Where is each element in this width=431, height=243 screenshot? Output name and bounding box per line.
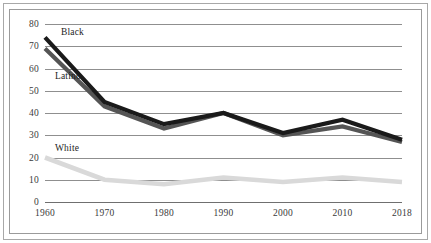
series-line-white xyxy=(45,158,402,185)
series-line-black xyxy=(45,37,402,139)
series-label-latino: Latino xyxy=(55,71,81,81)
plot-area xyxy=(45,24,402,202)
x-axis-tick-label: 1960 xyxy=(35,208,55,218)
series-label-black: Black xyxy=(61,27,84,37)
y-axis-tick-label: 10 xyxy=(29,175,39,185)
series-lines xyxy=(45,24,402,202)
x-axis-tick-label: 2018 xyxy=(392,208,412,218)
x-axis-tick-label: 2000 xyxy=(273,208,293,218)
x-axis-tick-label: 1970 xyxy=(95,208,115,218)
x-axis-tick-label: 1980 xyxy=(154,208,174,218)
chart-figure: 01020304050607080 1960197019801990200020… xyxy=(0,0,431,243)
x-axis-tick-label: 1990 xyxy=(214,208,234,218)
y-axis-tick-label: 60 xyxy=(29,64,39,74)
y-axis-tick-label: 20 xyxy=(29,153,39,163)
x-axis: 1960197019801990200020102018 xyxy=(45,208,402,224)
y-axis-tick-label: 70 xyxy=(29,41,39,51)
y-axis-tick-label: 30 xyxy=(29,130,39,140)
x-axis-tick-label: 2010 xyxy=(333,208,353,218)
y-axis: 01020304050607080 xyxy=(9,24,39,202)
y-axis-tick-label: 0 xyxy=(34,197,39,207)
y-axis-tick-label: 40 xyxy=(29,108,39,118)
y-axis-tick-label: 50 xyxy=(29,86,39,96)
y-axis-tick-label: 80 xyxy=(29,19,39,29)
series-label-white: White xyxy=(55,143,79,153)
